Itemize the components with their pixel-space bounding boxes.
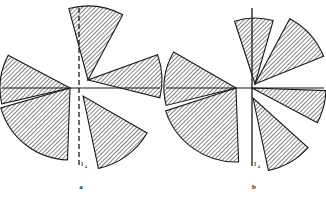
figure-root: I4aI4b [0, 0, 326, 199]
panel-caption-a: a [79, 183, 83, 191]
panel-caption-b: b [252, 183, 256, 191]
pinwheel-sector-figure: I4aI4b [0, 0, 326, 199]
